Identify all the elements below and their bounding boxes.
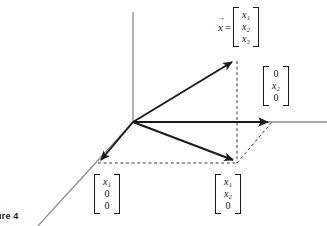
matrix-entry: x₁ (224, 176, 232, 188)
matrix-entry: x₁ (103, 176, 111, 188)
matrix-column: x₁ 0 0 (100, 174, 114, 214)
label-proj-x1: x₁ 0 0 (94, 174, 120, 214)
label-vector-x: →x = x₁ x₂ x₃ (218, 7, 259, 47)
matrix-vector-x: x₁ x₂ x₃ (233, 7, 259, 47)
figure-caption-fragment: ure 4 (0, 211, 19, 224)
bracket-right (283, 66, 289, 106)
label-proj-x1x2: x₁ x₂ 0 (215, 174, 241, 214)
vector-proj-x1x2-arrow (133, 122, 233, 160)
matrix-proj-x2: 0 x₂ 0 (263, 66, 289, 106)
matrix-entry: 0 (225, 200, 230, 212)
matrix-entry: x₂ (242, 21, 250, 33)
matrix-proj-x1: x₁ 0 0 (94, 174, 120, 214)
vector-proj-x1-arrow (101, 122, 133, 160)
bracket-right (253, 7, 259, 47)
matrix-entry: x₂ (272, 80, 280, 92)
guide-diagonal-base (237, 122, 272, 163)
matrix-proj-x1x2: x₁ x₂ 0 (215, 174, 241, 214)
matrix-column: x₁ x₂ x₃ (239, 7, 253, 47)
vector-x-symbol: →x (218, 21, 223, 33)
matrix-entry: 0 (104, 188, 109, 200)
matrix-entry: 0 (104, 200, 109, 212)
vector-x-arrow (133, 62, 232, 122)
bracket-right (114, 174, 120, 214)
matrix-entry: 0 (273, 68, 278, 80)
matrix-entry: x₂ (224, 188, 232, 200)
vector-arrow-accent: → (218, 16, 227, 21)
matrix-entry: x₃ (242, 33, 250, 45)
matrix-column: x₁ x₂ 0 (221, 174, 235, 214)
bracket-right (235, 174, 241, 214)
figure-canvas (0, 0, 327, 226)
matrix-entry: x₁ (242, 9, 250, 21)
matrix-entry: 0 (273, 92, 278, 104)
matrix-column: 0 x₂ 0 (269, 66, 283, 106)
vector-decomposition-figure: →x = x₁ x₂ x₃ 0 x₂ 0 (0, 0, 327, 226)
label-proj-x2: 0 x₂ 0 (263, 66, 289, 106)
equals-sign: = (225, 21, 231, 33)
